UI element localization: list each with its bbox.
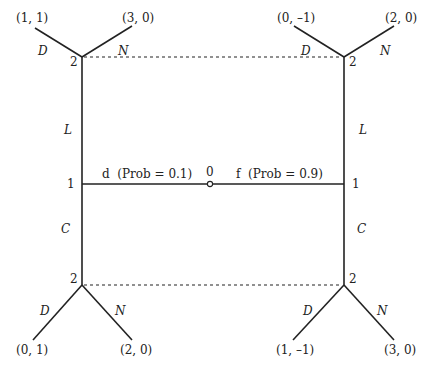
p2-bl-node-label: 2 xyxy=(70,272,78,286)
payoff-tr-N: (2, 0) xyxy=(385,11,417,25)
p1-left-node-label: 1 xyxy=(67,177,75,191)
nature-label: 0 xyxy=(206,165,214,179)
move-D-br: D xyxy=(302,304,313,318)
payoff-br-N: (3, 0) xyxy=(384,343,416,357)
move-C-left: C xyxy=(61,222,70,236)
payoff-bl-D: (0, 1) xyxy=(16,343,48,357)
move-D-tr: D xyxy=(300,44,311,58)
branch-br-D xyxy=(293,285,344,340)
payoff-tl-D: (1, 1) xyxy=(16,11,48,25)
move-C-right: C xyxy=(357,222,366,236)
p2-tl-node-label: 2 xyxy=(70,55,78,69)
p2-tr-node-label: 2 xyxy=(349,55,357,69)
game-tree: 0 d (Prob = 0.1) f (Prob = 0.9) 1 1 L L … xyxy=(0,0,427,374)
move-N-br: N xyxy=(376,304,388,318)
p2-br-node-label: 2 xyxy=(349,272,357,286)
move-D-bl: D xyxy=(39,304,50,318)
payoff-br-D: (1, –1) xyxy=(276,343,314,357)
payoff-tl-N: (3, 0) xyxy=(122,11,154,25)
move-L-left: L xyxy=(63,123,72,137)
move-N-bl: N xyxy=(114,304,126,318)
move-d-label: d (Prob = 0.1) xyxy=(102,167,192,181)
nature-node xyxy=(207,181,212,186)
move-N-tl: N xyxy=(117,44,129,58)
payoff-bl-N: (2, 0) xyxy=(120,343,152,357)
move-f-label: f (Prob = 0.9) xyxy=(236,167,323,181)
payoff-tr-D: (0, –1) xyxy=(277,11,315,25)
move-D-tl: D xyxy=(37,44,48,58)
move-L-right: L xyxy=(358,123,367,137)
p1-right-node-label: 1 xyxy=(352,177,360,191)
move-N-tr: N xyxy=(379,44,391,58)
